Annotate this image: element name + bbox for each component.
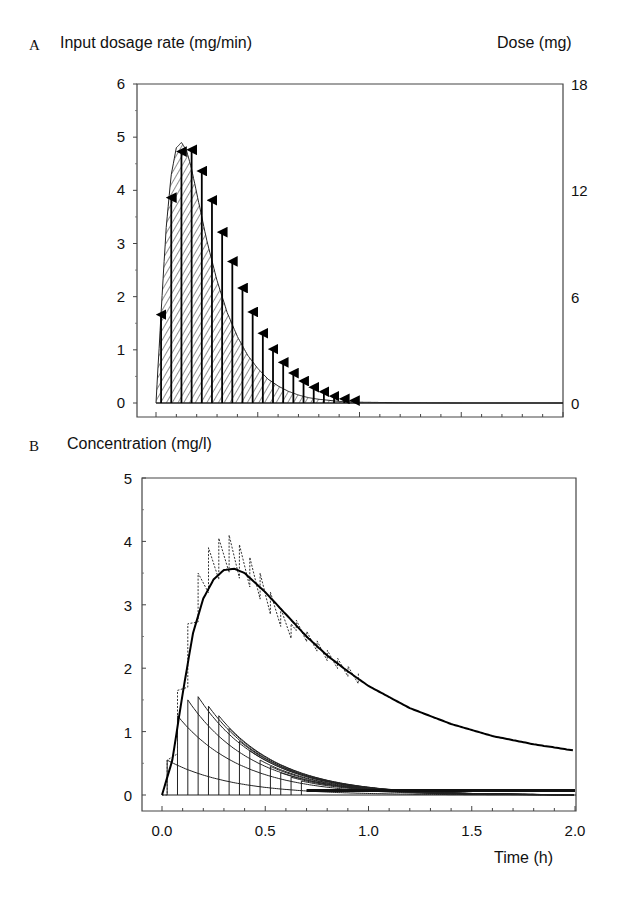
dose-response-decay [198,697,574,795]
dose-response-decay [219,716,574,795]
panel-a-left-tick-label: 4 [117,181,125,198]
panel-b-x-tick-label: 1.5 [461,822,482,839]
panel-b-x-tick-label: 0.5 [255,822,276,839]
dose-response-decay [208,706,574,795]
panel-b-y-tick-label: 1 [124,724,132,741]
dose-response-decay [239,741,574,795]
chart-canvas: 0123456061218 0123450.00.51.01.52.0 [0,0,618,910]
panel-b-frame [142,478,576,811]
panel-a-left-tick-label: 6 [117,75,125,92]
panel-a-left-tick-label: 0 [117,394,125,411]
panel-a-left-tick-label: 5 [117,128,125,145]
panel-b-y-tick-label: 3 [124,597,132,614]
panel-a-right-tick-label: 6 [571,289,579,306]
panel-b-x-tick-label: 2.0 [565,822,586,839]
panel-b-x-tick-label: 1.0 [358,822,379,839]
panel-b-y-tick-label: 5 [124,470,132,487]
panel-b-chart: 0123450.00.51.01.52.0 [124,470,586,839]
panel-a-right-tick-label: 12 [571,182,588,199]
continuous-concentration-curve [162,569,573,795]
panel-a-chart: 0123456061218 [117,75,588,417]
panel-b-y-tick-label: 4 [124,533,132,550]
panel-b-x-tick-label: 0.0 [152,822,173,839]
dose-response-decay [188,700,574,795]
panel-b-y-tick-label: 0 [124,787,132,804]
panel-a-left-tick-label: 1 [117,341,125,358]
panel-a-left-tick-label: 2 [117,288,125,305]
panel-a-left-tick-label: 3 [117,235,125,252]
rate-curve-area [156,143,563,404]
panel-a-right-tick-label: 18 [571,76,588,93]
panel-a-right-tick-label: 0 [571,395,579,412]
panel-b-y-tick-label: 2 [124,660,132,677]
